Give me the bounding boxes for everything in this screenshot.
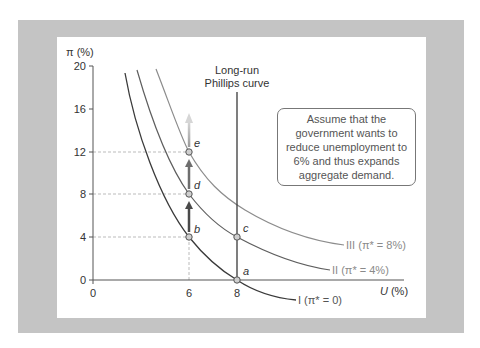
- curve-I: [125, 73, 296, 300]
- point-d: [186, 191, 192, 197]
- y-tick-8: 8: [80, 188, 86, 200]
- arrow-head-e-up: [185, 113, 193, 123]
- assumption-callout: Assume that the government wants to redu…: [277, 108, 416, 186]
- point-a: [234, 277, 240, 283]
- arrow-e-up: [188, 122, 191, 147]
- point-c: [234, 234, 240, 240]
- lrpc-label-line2: Phillips curve: [205, 77, 270, 89]
- curve-I-label: I (π* = 0): [298, 294, 342, 306]
- point-b: [186, 234, 192, 240]
- x-axis-label: U(%): [380, 285, 408, 297]
- y-tick-12: 12: [74, 146, 86, 158]
- curve-II-label: II (π* = 4%): [332, 264, 389, 276]
- point-d-label: d: [194, 179, 201, 191]
- x-tick-0: 0: [90, 287, 96, 299]
- arrow-head-b-to-d: [185, 201, 193, 209]
- lrpc-label-line1: Long-run: [215, 64, 259, 76]
- point-e-label: e: [194, 137, 200, 149]
- x-axis-label-u: U: [380, 285, 388, 297]
- point-c-label: c: [243, 222, 249, 234]
- y-axis-label: π (%): [66, 46, 94, 58]
- x-tick-8: 8: [234, 287, 240, 299]
- y-tick-20: 20: [74, 60, 86, 72]
- point-b-label: b: [194, 223, 200, 235]
- curve-III-label: III (π* = 8%): [346, 239, 406, 251]
- x-axis-label-unit: (%): [391, 285, 408, 297]
- y-tick-0: 0: [80, 274, 86, 286]
- arrow-head-d-to-e: [185, 159, 193, 167]
- callout-text: Assume that the government wants to redu…: [282, 112, 411, 182]
- point-e: [186, 149, 192, 155]
- x-tick-6: 6: [186, 287, 192, 299]
- y-tick-4: 4: [80, 231, 86, 243]
- y-tick-16: 16: [74, 103, 86, 115]
- point-a-label: a: [243, 265, 249, 277]
- movement-arrows: [185, 113, 193, 232]
